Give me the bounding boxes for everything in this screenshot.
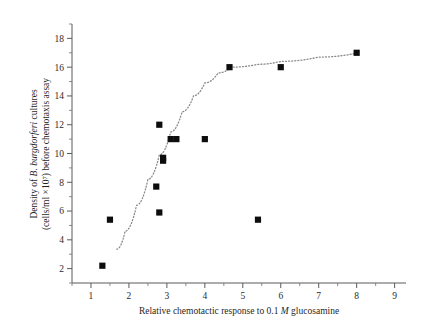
x-axis-ticks [72, 283, 395, 288]
x-axis-title: Relative chemotactic response to 0.1 M g… [139, 306, 339, 316]
y-tick-label: 2 [59, 264, 64, 274]
y-axis-ticks [67, 24, 72, 283]
x-tick-label: 4 [202, 291, 207, 301]
scatter-plot-svg: 24681012141618 123456789 Relative chemot… [0, 0, 424, 334]
y-tick-label: 16 [55, 63, 65, 73]
y-axis-title: Density of B. burgdorferi cultures (cell… [29, 78, 52, 230]
y-tick-label: 4 [59, 235, 64, 245]
data-points-group [99, 50, 360, 269]
x-tick-label: 7 [316, 291, 321, 301]
x-tick-label: 2 [127, 291, 132, 301]
x-tick-label: 5 [240, 291, 245, 301]
data-point-marker [173, 136, 179, 142]
data-point-marker [278, 64, 284, 70]
data-point-marker [107, 217, 113, 223]
y-tick-label: 8 [59, 178, 64, 188]
data-point-marker [202, 136, 208, 142]
data-point-marker [226, 64, 232, 70]
y-tick-label: 14 [55, 91, 65, 101]
x-tick-label: 9 [392, 291, 397, 301]
y-axis-title-line2: (cells/ml ×10⁷) before chemotaxis assay [41, 78, 52, 230]
y-tick-label: 18 [55, 34, 65, 44]
y-tick-label: 12 [55, 120, 65, 130]
y-tick-label: 10 [55, 149, 65, 159]
x-tick-label: 8 [354, 291, 359, 301]
data-point-marker [99, 263, 105, 269]
data-point-marker [160, 155, 166, 161]
data-point-marker [156, 209, 162, 215]
data-point-marker [354, 50, 360, 56]
x-axis-tick-labels: 123456789 [89, 291, 398, 301]
x-tick-label: 1 [89, 291, 94, 301]
y-axis-tick-labels: 24681012141618 [55, 34, 65, 274]
data-point-marker [255, 217, 261, 223]
trend-line [117, 53, 359, 249]
data-point-marker [168, 136, 174, 142]
y-axis-title-line1: Density of B. burgdorferi cultures [29, 89, 39, 219]
data-point-marker [153, 183, 159, 189]
x-tick-label: 6 [278, 291, 283, 301]
x-tick-label: 3 [165, 291, 170, 301]
data-point-marker [156, 122, 162, 128]
y-tick-label: 6 [59, 206, 64, 216]
chemotaxis-scatter-figure: 24681012141618 123456789 Relative chemot… [0, 0, 424, 334]
